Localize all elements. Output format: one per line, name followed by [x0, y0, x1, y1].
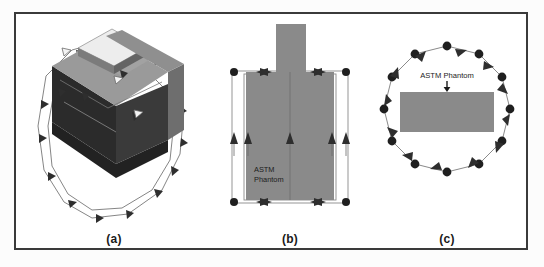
panel-a: (a)	[16, 14, 212, 252]
phantom-pointer-arrow-c	[444, 81, 451, 92]
phantom-label-b-line2: Phantom	[254, 175, 284, 184]
phantom-neck-b	[276, 24, 306, 74]
figure-frame: (a)	[14, 12, 528, 250]
panel-a-graphic	[16, 14, 212, 252]
panel-c-caption: (c)	[368, 232, 526, 246]
figure-container: (a)	[0, 0, 544, 267]
panel-a-caption: (a)	[16, 232, 212, 246]
panel-b-caption: (b)	[212, 232, 368, 246]
panel-b: ASTM Phantom (b)	[212, 14, 368, 252]
phantom-label-b-line1: ASTM	[254, 165, 275, 174]
phantom-label-c: ASTM Phantom	[420, 71, 474, 80]
phantom-3d-body	[52, 29, 184, 178]
panel-c: ASTM Phantom (c)	[368, 14, 526, 252]
phantom-body-c	[400, 92, 494, 132]
panel-c-graphic: ASTM Phantom	[368, 14, 526, 252]
panel-b-graphic: ASTM Phantom	[212, 14, 368, 252]
